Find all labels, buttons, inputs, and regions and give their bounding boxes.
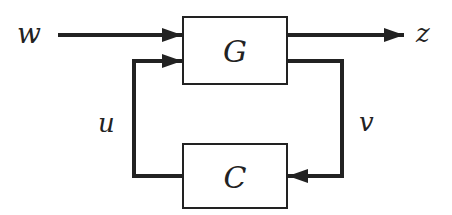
controller-label: C: [224, 160, 247, 195]
v-label: v: [359, 107, 374, 137]
plant-block: G: [183, 17, 287, 84]
v-signal-arrow: [287, 61, 342, 176]
z-label: z: [415, 18, 430, 48]
controller-block: C: [183, 144, 287, 208]
plant-label: G: [223, 34, 247, 69]
u-label: u: [98, 108, 115, 138]
u-signal-arrow: [134, 61, 183, 176]
feedback-diagram: G C w z u v: [0, 0, 452, 215]
w-label: w: [17, 17, 41, 50]
